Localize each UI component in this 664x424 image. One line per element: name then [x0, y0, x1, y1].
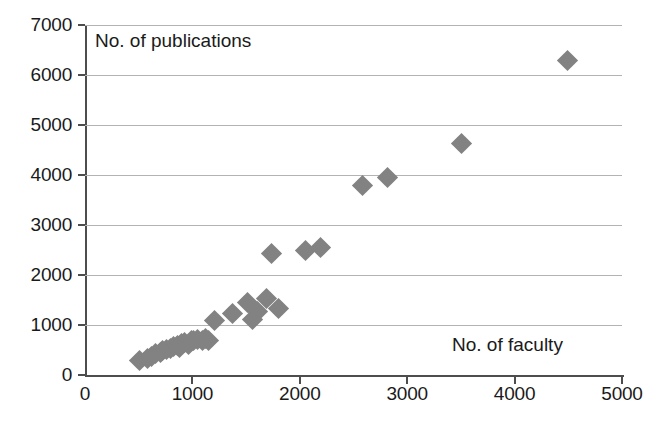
- gridline-horizontal: [85, 225, 622, 226]
- x-axis-title: No. of faculty: [452, 334, 563, 356]
- x-tick-label: 0: [40, 384, 130, 403]
- y-tick-label: 0: [0, 365, 72, 384]
- gridline-horizontal: [85, 25, 622, 26]
- y-tick-label: 3000: [0, 215, 72, 234]
- plot-area: [85, 25, 622, 375]
- x-tick-label: 4000: [470, 384, 560, 403]
- gridline-horizontal: [85, 275, 622, 276]
- gridline-horizontal: [85, 75, 622, 76]
- x-axis-line: [85, 375, 624, 377]
- y-tick-label: 6000: [0, 65, 72, 84]
- y-tick-mark: [78, 374, 85, 376]
- x-tick-label: 1000: [147, 384, 237, 403]
- x-tick-label: 3000: [362, 384, 452, 403]
- y-tick-label: 4000: [0, 165, 72, 184]
- y-tick-mark: [78, 224, 85, 226]
- y-tick-mark: [78, 324, 85, 326]
- y-tick-label: 2000: [0, 265, 72, 284]
- gridline-horizontal: [85, 175, 622, 176]
- y-tick-mark: [78, 274, 85, 276]
- scatter-chart: 01000200030004000500060007000 0100020003…: [0, 0, 664, 424]
- y-axis-title: No. of publications: [95, 30, 251, 52]
- x-tick-label: 5000: [577, 384, 664, 403]
- x-tick-label: 2000: [255, 384, 345, 403]
- y-tick-mark: [78, 24, 85, 26]
- y-tick-mark: [78, 124, 85, 126]
- y-tick-label: 5000: [0, 115, 72, 134]
- y-tick-label: 1000: [0, 315, 72, 334]
- y-tick-mark: [78, 74, 85, 76]
- gridline-horizontal: [85, 125, 622, 126]
- y-tick-label: 7000: [0, 15, 72, 34]
- gridline-horizontal: [85, 325, 622, 326]
- y-tick-mark: [78, 174, 85, 176]
